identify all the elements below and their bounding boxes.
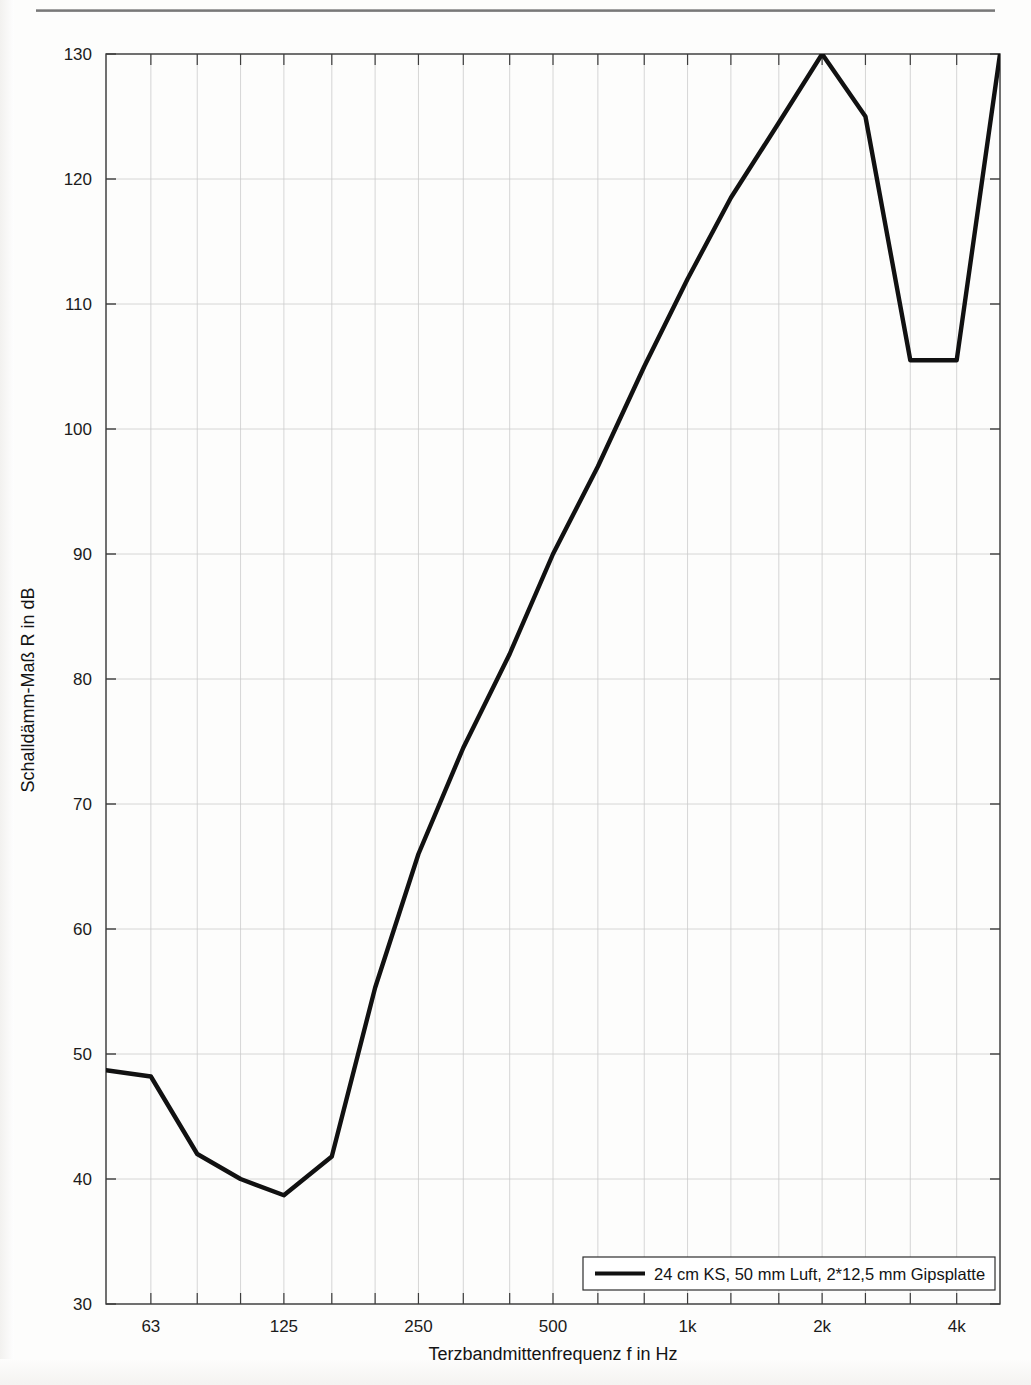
x-tick-label: 250: [404, 1317, 432, 1336]
y-tick-label: 60: [73, 920, 92, 939]
chart-canvas: 30405060708090100110120130 631252505001k…: [0, 0, 1031, 1385]
grid-layer: [106, 54, 1000, 1304]
y-tick-label: 130: [64, 45, 92, 64]
x-tick-label: 125: [270, 1317, 298, 1336]
y-tick-label: 100: [64, 420, 92, 439]
y-tick-label: 90: [73, 545, 92, 564]
y-tick-label: 80: [73, 670, 92, 689]
x-tick-label: 2k: [813, 1317, 831, 1336]
x-tick-label: 500: [539, 1317, 567, 1336]
y-axis-title: Schalldämm-Maß R in dB: [18, 587, 38, 792]
chart-legend[interactable]: 24 cm KS, 50 mm Luft, 2*12,5 mm Gipsplat…: [583, 1257, 995, 1290]
y-tick-label: 110: [65, 295, 92, 314]
x-axis-title: Terzbandmittenfrequenz f in Hz: [428, 1344, 677, 1364]
y-tick-label: 70: [73, 795, 92, 814]
scanned-page: 30405060708090100110120130 631252505001k…: [0, 0, 1031, 1385]
x-tick-label: 1k: [679, 1317, 697, 1336]
x-axis-tick-labels: 631252505001k2k4k: [141, 1317, 966, 1336]
y-tick-label: 50: [73, 1045, 92, 1064]
legend-entry-label: 24 cm KS, 50 mm Luft, 2*12,5 mm Gipsplat…: [654, 1265, 985, 1283]
y-tick-label: 30: [73, 1295, 92, 1314]
sound-insulation-chart-figure: 30405060708090100110120130 631252505001k…: [0, 0, 1031, 1385]
x-tick-label: 63: [141, 1317, 160, 1336]
y-tick-label: 40: [73, 1170, 92, 1189]
y-tick-label: 120: [64, 170, 92, 189]
y-axis-tick-labels: 30405060708090100110120130: [64, 45, 92, 1314]
x-tick-label: 4k: [948, 1317, 966, 1336]
